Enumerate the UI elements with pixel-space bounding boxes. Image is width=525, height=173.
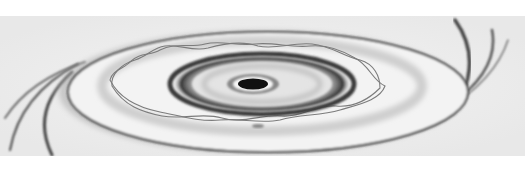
image-frame: Pencil drawing of a spiral disk with dar… <box>0 0 525 173</box>
spiral-disk-illustration <box>0 16 525 156</box>
small-mark <box>252 124 264 128</box>
central-core <box>238 79 268 90</box>
